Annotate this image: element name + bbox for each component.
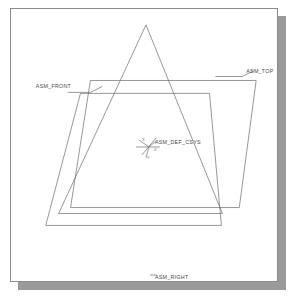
datum-plane-outline-asm-front: [46, 93, 222, 225]
datum-plane-asm-right[interactable]: ASM_RIGHT: [59, 25, 223, 280]
application-root: ASM_TOP ASM_FRONT ASM_RIGHT X: [0, 0, 293, 301]
csys-x-axis-label: X: [142, 137, 145, 142]
model-viewport[interactable]: ASM_TOP ASM_FRONT ASM_RIGHT X: [10, 8, 278, 282]
csys-y-axis-label: Y: [147, 155, 150, 160]
datum-label-asm-front[interactable]: ASM_FRONT: [36, 83, 72, 89]
viewport-canvas[interactable]: ASM_TOP ASM_FRONT ASM_RIGHT X: [11, 9, 277, 281]
csys-label-asm-def-csys[interactable]: ASM_DEF_CSYS: [155, 139, 201, 145]
datum-label-leader-asm-front: [68, 86, 103, 92]
coordinate-system-asm-def-csys[interactable]: X Y Z ASM_DEF_CSYS: [136, 137, 201, 160]
datum-plane-asm-front[interactable]: ASM_FRONT: [36, 83, 222, 225]
csys-z-axis-label: Z: [154, 147, 157, 152]
datum-label-asm-right[interactable]: ASM_RIGHT: [155, 274, 189, 280]
datum-label-asm-top[interactable]: ASM_TOP: [246, 68, 273, 74]
datum-plane-outline-asm-right: [59, 25, 223, 214]
